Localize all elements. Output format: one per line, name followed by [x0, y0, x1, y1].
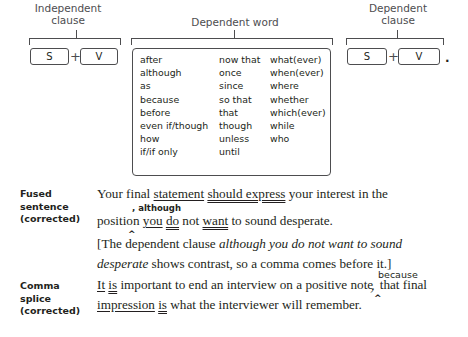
- dependent-word: whether: [270, 93, 326, 106]
- dependent-word: when(ever): [270, 66, 326, 79]
- dependent-word-label: Dependent word: [175, 16, 295, 28]
- subject-underline: you: [143, 213, 163, 228]
- dependent-word: though: [219, 119, 260, 132]
- dependent-word: so that: [219, 93, 260, 106]
- dependent-word: where: [270, 79, 326, 92]
- dependent-word: until: [219, 145, 260, 158]
- subject-underline: impression: [97, 297, 155, 312]
- comma-splice-line-2: impression is what the interviewer will …: [97, 297, 362, 313]
- insertion-although: , although: [132, 203, 181, 213]
- dependent-clause-bracket: [346, 38, 444, 45]
- dependent-word-column-1: after although as because before even if…: [140, 53, 208, 159]
- comma-splice-line-1: It is important to end an interview on a…: [97, 277, 427, 293]
- dependent-subject-box: S: [347, 48, 387, 65]
- dependent-word: now that: [219, 53, 260, 66]
- dependent-word-table: after although as because before even if…: [132, 48, 331, 176]
- verb-double-underline: do: [166, 213, 179, 228]
- fused-sentence-line-2: position you do not want to sound desper…: [97, 213, 333, 229]
- dependent-word-tick: [234, 30, 235, 38]
- verb-double-underline: want: [203, 213, 229, 228]
- dependent-word: once: [219, 66, 260, 79]
- dependent-word: what(ever): [270, 53, 326, 66]
- dependent-word: as: [140, 79, 208, 92]
- dependent-word: who: [270, 132, 326, 145]
- end-period: .: [445, 51, 450, 65]
- dependent-clause-label: Dependent clause: [348, 2, 448, 26]
- independent-verb-box: V: [80, 48, 118, 65]
- verb-double-underline: is: [108, 277, 117, 292]
- dependent-clause-tick: [397, 30, 398, 38]
- dependent-verb-box: V: [398, 48, 440, 65]
- dependent-word: since: [219, 79, 260, 92]
- dependent-word: although: [140, 66, 208, 79]
- verb-double-underline: should express: [207, 186, 285, 201]
- dependent-word-column-3: what(ever) when(ever) where whether whic…: [270, 53, 326, 145]
- dependent-word: unless: [219, 132, 260, 145]
- independent-clause-label: Independent clause: [18, 2, 118, 26]
- dependent-word-column-2: now that once since so that that though …: [219, 53, 260, 159]
- independent-clause-tick: [76, 30, 77, 38]
- dependent-word: that: [219, 106, 260, 119]
- insertion-caret: ^: [374, 293, 382, 303]
- comma-splice-label: Comma splice (corrected): [20, 280, 80, 318]
- subject-underline: statement: [154, 186, 205, 201]
- dependent-word: because: [140, 93, 208, 106]
- fused-sentence-line-1: Your final statement should express your…: [97, 186, 388, 202]
- subject-underline: It: [97, 277, 105, 292]
- fused-sentence-note-line-1: [The dependent clause although you do no…: [97, 236, 402, 252]
- fused-sentence-label: Fused sentence (corrected): [20, 188, 80, 226]
- dependent-word-bracket: [131, 38, 333, 45]
- dependent-word: before: [140, 106, 208, 119]
- dependent-word: which(ever): [270, 106, 326, 119]
- independent-subject-box: S: [30, 48, 69, 65]
- dependent-word: if/if only: [140, 145, 208, 158]
- dependent-word: how: [140, 132, 208, 145]
- fused-sentence-note-line-2: desperate shows contrast, so a comma com…: [97, 256, 391, 272]
- verb-double-underline: is: [158, 297, 167, 312]
- dependent-word: while: [270, 119, 326, 132]
- dependent-word: even if/though: [140, 119, 208, 132]
- independent-clause-bracket: [29, 38, 121, 45]
- dependent-word: after: [140, 53, 208, 66]
